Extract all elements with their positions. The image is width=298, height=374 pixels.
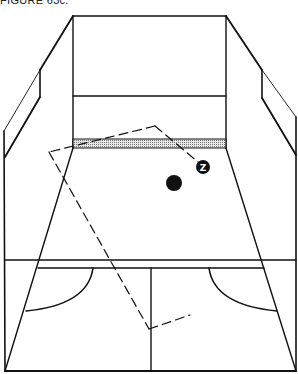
player-z-marker: Z [196,160,210,174]
squash-court-diagram: Z [0,0,298,374]
left-side-wall [4,16,73,371]
right-side-wall [226,16,296,371]
left-service-box-arc [26,268,93,311]
front-wall [73,16,226,148]
ball-icon [166,175,182,191]
right-service-box-arc [209,268,277,311]
player-z-label: Z [200,163,207,173]
floor [5,148,296,371]
